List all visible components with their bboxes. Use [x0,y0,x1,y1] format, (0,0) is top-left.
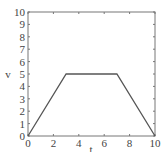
x-tick-label: 4 [76,137,82,149]
y-tick-label: 2 [20,105,26,117]
velocity-series-line [28,74,155,136]
y-tick-label: 8 [20,31,26,43]
y-tick-label: 9 [20,18,26,30]
y-tick-label: 1 [20,118,26,130]
trapezoid-velocity-chart: 0246810 012345678910 t v [0,0,161,152]
y-tick-label: 4 [20,80,26,92]
y-tick-label: 10 [14,6,26,18]
x-axis-ticks: 0246810 [25,12,161,149]
y-tick-label: 0 [20,130,26,142]
x-tick-label: 10 [150,137,162,149]
x-tick-label: 2 [51,137,57,149]
y-tick-label: 5 [20,68,26,80]
x-tick-label: 8 [127,137,133,149]
y-axis-label: v [5,68,11,80]
x-axis-label: t [89,143,92,152]
y-tick-label: 6 [20,56,26,68]
x-tick-label: 0 [25,137,31,149]
y-tick-label: 7 [20,43,26,55]
x-tick-label: 6 [101,137,107,149]
y-tick-label: 3 [20,93,26,105]
